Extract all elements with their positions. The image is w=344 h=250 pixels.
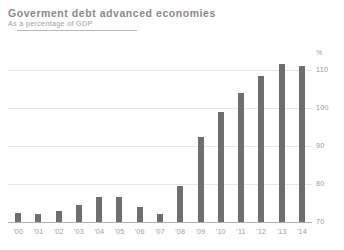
plot-area [8, 46, 312, 222]
x-axis-tick-11: '11 [236, 227, 245, 236]
bar-slot [251, 46, 271, 222]
y-axis-tick-110: 110 [316, 66, 328, 74]
x-axis-tick-05: '05 [114, 227, 124, 236]
bar[interactable] [157, 214, 163, 222]
bar-slot [89, 46, 109, 222]
x-axis-tick-03: '03 [74, 227, 84, 236]
bar-slot [170, 46, 190, 222]
y-axis-tick-80: 80 [316, 180, 325, 188]
bar-slot [271, 46, 291, 222]
bar-slot [292, 46, 312, 222]
y-axis-unit-label: % [316, 49, 322, 57]
chart-figure: Goverment debt advanced economies As a p… [0, 0, 344, 250]
chart-subtitle: As a percentage of GDP [8, 19, 93, 29]
y-axis-tick-70: 70 [316, 218, 325, 226]
bar[interactable] [56, 211, 62, 222]
bar-slot [150, 46, 170, 222]
y-axis-tick-90: 90 [316, 142, 325, 150]
x-axis-tick-06: '06 [135, 227, 145, 236]
header-rule-divider [17, 30, 137, 31]
x-axis-tick-12: '12 [256, 227, 266, 236]
bar[interactable] [137, 207, 143, 222]
bar[interactable] [15, 213, 21, 223]
x-axis-tick-01: '01 [33, 227, 43, 236]
bar[interactable] [35, 214, 41, 222]
bar-slot [49, 46, 69, 222]
bar[interactable] [177, 186, 183, 222]
bar-slot [211, 46, 231, 222]
bar-slot [190, 46, 210, 222]
bar[interactable] [279, 64, 285, 222]
bar[interactable] [218, 112, 224, 222]
bar[interactable] [76, 205, 82, 222]
bar[interactable] [96, 197, 102, 222]
x-axis-tick-00: '00 [13, 227, 23, 236]
x-axis-tick-09: '09 [196, 227, 206, 236]
bar-slot [231, 46, 251, 222]
x-axis-tick-14: '14 [297, 227, 307, 236]
bar-slot [28, 46, 48, 222]
bar-series [8, 46, 312, 222]
bar-slot [109, 46, 129, 222]
bar[interactable] [299, 66, 305, 222]
x-axis-tick-13: '13 [277, 227, 287, 236]
bar-slot [130, 46, 150, 222]
x-axis-tick-10: '10 [216, 227, 226, 236]
x-axis-tick-08: '08 [175, 227, 185, 236]
gridline-70 [8, 222, 312, 223]
bar[interactable] [258, 76, 264, 222]
bar[interactable] [198, 137, 204, 223]
x-axis-tick-02: '02 [54, 227, 64, 236]
x-axis-tick-04: '04 [94, 227, 104, 236]
y-axis-tick-100: 100 [316, 104, 329, 112]
x-axis-tick-07: '07 [155, 227, 165, 236]
bar-slot [8, 46, 28, 222]
bar[interactable] [116, 197, 122, 222]
bar[interactable] [238, 93, 244, 222]
bar-slot [69, 46, 89, 222]
